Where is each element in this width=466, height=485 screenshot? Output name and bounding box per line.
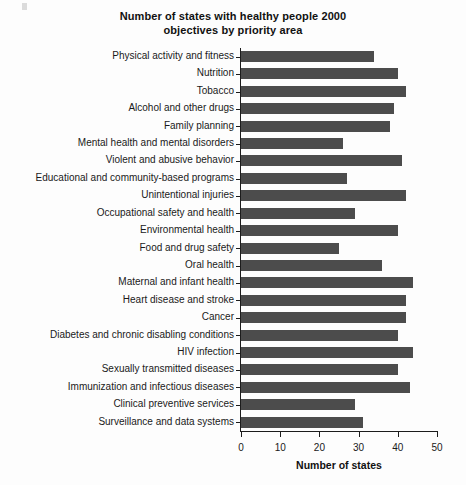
bar	[241, 364, 398, 375]
bar	[241, 330, 398, 341]
bar	[241, 121, 390, 132]
bar	[241, 399, 355, 410]
bar	[241, 155, 402, 166]
bar	[241, 138, 343, 149]
bar	[241, 173, 347, 184]
chart-title: Number of states with healthy people 200…	[0, 9, 466, 37]
bar	[241, 225, 398, 236]
bar	[241, 190, 406, 201]
category-label: Sexually transmitted diseases	[102, 362, 234, 375]
category-label: Violent and abusive behavior	[106, 153, 234, 166]
x-axis-tick-label: 20	[304, 442, 334, 453]
category-label: Diabetes and chronic disabling condition…	[50, 328, 234, 341]
category-label: Oral health	[185, 258, 234, 271]
x-axis-tick-label: 50	[422, 442, 452, 453]
bar	[241, 295, 406, 306]
chart-title-line-1: Number of states with healthy people 200…	[0, 9, 466, 23]
category-label: Educational and community-based programs	[36, 171, 234, 184]
chart-title-line-2: objectives by priority area	[0, 23, 466, 37]
bar	[241, 103, 394, 114]
category-label: Occupational safety and health	[97, 206, 234, 219]
category-label: Physical activity and fitness	[112, 49, 234, 62]
category-label: Maternal and infant health	[118, 275, 234, 288]
x-axis-tick-label: 0	[226, 442, 256, 453]
bar	[241, 243, 339, 254]
x-axis-tick	[241, 431, 242, 437]
x-axis-tick-label: 30	[344, 442, 374, 453]
bar	[241, 417, 363, 428]
x-axis-tick	[398, 431, 399, 437]
x-axis-tick-label: 10	[265, 442, 295, 453]
category-label: Clinical preventive services	[113, 397, 234, 410]
category-label: Unintentional injuries	[141, 188, 234, 201]
category-label: HIV infection	[177, 345, 234, 358]
bar	[241, 260, 382, 271]
x-axis-tick	[359, 431, 360, 437]
category-label: Surveillance and data systems	[98, 415, 234, 428]
category-label: Immunization and infectious diseases	[68, 380, 234, 393]
category-label: Cancer	[202, 310, 234, 323]
x-axis-tick	[437, 431, 438, 437]
category-label: Alcohol and other drugs	[128, 101, 234, 114]
x-axis-line	[241, 431, 437, 432]
bar	[241, 51, 374, 62]
x-axis-title: Number of states	[241, 459, 437, 471]
x-axis-tick	[319, 431, 320, 437]
bar	[241, 277, 413, 288]
bar	[241, 312, 406, 323]
category-label: Environmental health	[140, 223, 234, 236]
category-label: Nutrition	[197, 66, 234, 79]
category-label: Food and drug safety	[139, 241, 234, 254]
chart-page: Number of states with healthy people 200…	[0, 0, 466, 485]
bar	[241, 382, 410, 393]
category-label: Mental health and mental disorders	[78, 136, 234, 149]
category-label: Tobacco	[197, 84, 234, 97]
x-axis-tick	[280, 431, 281, 437]
bar	[241, 68, 398, 79]
category-label: Family planning	[164, 119, 234, 132]
bar	[241, 347, 413, 358]
bar	[241, 86, 406, 97]
bar	[241, 208, 355, 219]
plot-area: Physical activity and fitnessNutritionTo…	[241, 48, 437, 431]
x-axis-tick-label: 40	[383, 442, 413, 453]
category-label: Heart disease and stroke	[123, 293, 234, 306]
